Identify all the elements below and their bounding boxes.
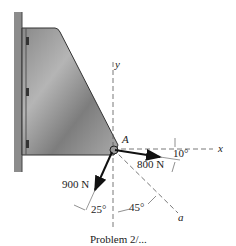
force-900n-label: 900 N: [62, 178, 89, 190]
angle-45-label: 45°: [129, 201, 144, 213]
x-axis-label: x: [217, 142, 223, 154]
angle-25-label: 25°: [91, 203, 106, 215]
bolt-icon: [26, 37, 29, 45]
bracket: [22, 28, 118, 155]
y-axis-label: y: [114, 58, 120, 70]
wall: [14, 12, 22, 172]
angle-10-label: 10°: [173, 147, 188, 159]
force-800n-arrow: [115, 150, 160, 157]
point-a-label: A: [121, 133, 129, 145]
caption: Problem 2/...: [90, 233, 147, 245]
bolt-icon: [26, 88, 29, 96]
force-diagram: y x a A 800 N 10° 900 N 25° 45° Problem …: [0, 0, 236, 246]
force-800n-label: 800 N: [137, 158, 164, 170]
bolt-icon: [26, 140, 29, 148]
force-900n-arrow: [95, 152, 112, 190]
a-axis-label: a: [178, 211, 184, 223]
